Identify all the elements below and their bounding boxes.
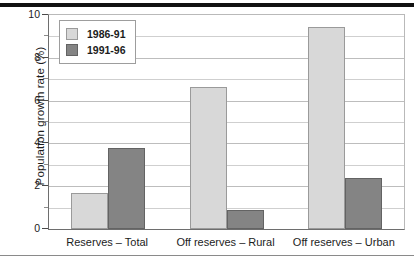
y-axis-tick-mark <box>42 142 48 143</box>
y-axis-tick-mark <box>44 164 48 165</box>
gridline-major <box>49 143 404 144</box>
y-axis-tick-label: 0 <box>18 222 40 234</box>
legend-label: 1986-91 <box>87 28 126 40</box>
x-axis-category-label: Off reserves – Urban <box>285 236 403 248</box>
legend-label: 1991-96 <box>87 44 126 56</box>
bottom-divider-rule <box>0 255 414 256</box>
y-axis-tick-mark <box>42 57 48 58</box>
y-axis-tick-mark <box>42 228 48 229</box>
bar <box>190 87 227 229</box>
chart-figure: Population growth rate (%) 0246810 Reser… <box>0 0 414 262</box>
legend-swatch-icon <box>66 44 78 56</box>
y-axis-tick-mark <box>42 100 48 101</box>
legend-item: 1986-91 <box>66 26 126 42</box>
legend-item: 1991-96 <box>66 42 126 58</box>
y-axis-tick-mark <box>44 35 48 36</box>
bar <box>345 178 382 229</box>
y-axis-tick-mark <box>42 185 48 186</box>
y-axis-tick-mark <box>44 78 48 79</box>
y-axis-tick-label: 6 <box>18 94 40 106</box>
y-axis-tick-mark <box>44 121 48 122</box>
legend-swatch-icon <box>66 28 78 40</box>
bar <box>108 148 145 229</box>
chart-legend: 1986-91 1991-96 <box>59 20 136 64</box>
y-axis-tick-label: 8 <box>18 51 40 63</box>
y-axis-tick-label: 10 <box>18 8 40 20</box>
bar <box>227 210 264 229</box>
y-axis-tick-label: 4 <box>18 136 40 148</box>
y-axis-tick-labels: 0246810 <box>18 0 40 262</box>
bar <box>308 27 345 229</box>
y-axis-tick-label: 2 <box>18 179 40 191</box>
gridline-minor <box>49 122 404 123</box>
gridline-major <box>49 101 404 102</box>
x-axis-category-label: Reserves – Total <box>48 236 166 248</box>
y-axis-tick-mark <box>42 14 48 15</box>
gridline-minor <box>49 79 404 80</box>
bar <box>71 193 108 229</box>
y-axis-tick-mark <box>44 207 48 208</box>
top-divider-rule <box>0 3 414 7</box>
x-axis-category-label: Off reserves – Rural <box>166 236 284 248</box>
gridline-minor <box>49 165 404 166</box>
